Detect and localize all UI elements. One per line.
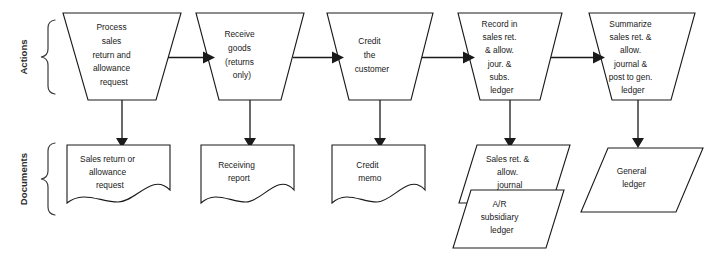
connector-action-1-to-doc-1 — [116, 100, 128, 148]
documents-brace-icon — [41, 143, 55, 215]
connector-action-3-to-doc-3 — [374, 100, 386, 148]
action-node-3[interactable]: Credit the customer — [327, 13, 433, 100]
row-label-documents-group: Documents — [18, 143, 55, 215]
document-node-6[interactable]: General ledger — [581, 148, 703, 212]
actions-brace-icon — [41, 20, 55, 94]
action-node-5[interactable]: Summarize sales ret. & allow. journal & … — [589, 13, 695, 100]
flowchart-svg: Actions Documents Process sales return a… — [0, 0, 727, 270]
document-node-2[interactable]: Receiving report — [201, 145, 294, 203]
connector-action-2-to-3 — [293, 52, 344, 64]
row-label-actions-group: Actions — [18, 20, 55, 94]
documents-row-label: Documents — [18, 153, 29, 205]
action-node-4[interactable]: Record in sales ret. & allow. jour. & su… — [458, 13, 562, 100]
connector-action-3-to-4 — [422, 52, 475, 64]
action-node-1-label: Process sales return and allowance reque… — [92, 22, 151, 87]
action-node-1[interactable]: Process sales return and allowance reque… — [63, 13, 181, 100]
actions-row-label: Actions — [18, 39, 29, 74]
document-node-3[interactable]: Credit memo — [332, 145, 425, 203]
connector-action-4-to-5 — [551, 52, 605, 64]
arrowhead-icon — [632, 138, 644, 148]
document-node-1[interactable]: Sales return or allowance request — [67, 145, 170, 203]
connector-action-5-to-doc-6 — [632, 100, 644, 148]
flowchart-canvas: Actions Documents Process sales return a… — [0, 0, 727, 270]
connector-action-4-to-doc-4 — [504, 100, 516, 148]
connector-action-2-to-doc-2 — [244, 100, 256, 148]
document-node-5[interactable]: A/R subsidiary ledger — [453, 190, 564, 248]
